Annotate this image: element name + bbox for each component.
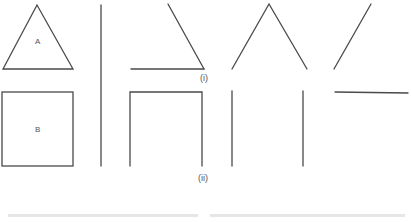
row-ii-fragment-2 xyxy=(232,91,303,166)
faint-scan-text-right xyxy=(210,214,405,217)
shape-a-triangle: A xyxy=(3,5,73,69)
row-ii-label: (ii) xyxy=(198,173,208,183)
row-ii-fragment-1 xyxy=(130,92,202,166)
row-i-fragment-1 xyxy=(131,4,204,69)
shape-b-label: B xyxy=(35,125,40,134)
row-i-label: (i) xyxy=(200,73,208,83)
shape-a-label: A xyxy=(35,37,41,46)
row-i-fragment-3 xyxy=(334,4,371,69)
row-ii-fragment-3 xyxy=(335,92,408,93)
shape-b-square: B xyxy=(2,92,73,166)
figure-canvas: A B (i) (ii) xyxy=(0,0,411,222)
row-i-fragment-2 xyxy=(232,4,307,69)
faint-scan-text-left xyxy=(8,214,198,217)
